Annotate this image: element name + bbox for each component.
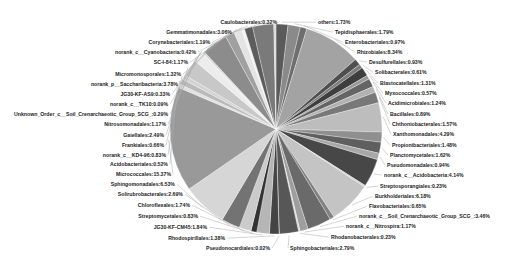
slice-label: Chloroflexales:1.74% (138, 202, 191, 208)
leader-line (382, 148, 388, 155)
slice-label: Blastocatellales:1.31% (380, 80, 436, 86)
slice-label: Rhodanobacterales:0.23% (331, 234, 396, 240)
slice-label: norank_c__KD4-96:0.83% (103, 152, 167, 158)
slice-label: Tepidisphaerales:1.79% (335, 29, 394, 35)
slice-label: Planctomycetales:1.62% (390, 152, 451, 158)
slice-label: Sphingobacteriales:2.79% (290, 245, 355, 251)
slice-label: JG30-KF-AS9:0.33% (120, 91, 170, 97)
slice-label: Unknown_Order_c__Soil_Crenarchaeotic_Gro… (14, 111, 168, 117)
slice-label: norank_p__Saccharibacteria:3.78% (91, 81, 178, 87)
slice-label: Solirubrobacterales:2.69% (118, 191, 184, 197)
slice-label: norank_c__Acidobacteria:4.14% (384, 172, 464, 178)
slice-label: Gaiellales:2.49% (123, 132, 164, 138)
leader-line (359, 61, 367, 63)
slice-label: Chthoniobacterales:1.57% (392, 121, 457, 127)
slice-label: Micromonosporales:1.32% (115, 71, 181, 77)
slice-label: Propionibacteriales:1.48% (392, 142, 457, 148)
slice-label: Desulfurellales:0.93% (369, 59, 423, 65)
leader-line (272, 236, 279, 248)
slice-label: Streptosporangiales:0.23% (380, 183, 447, 189)
pie-slices (170, 24, 382, 234)
slice-label: norank_c__Cyanobacteria:0.42% (115, 49, 196, 55)
slice-label: Xanthomonadales:4.29% (393, 131, 455, 137)
slice-label: Sphingomonadales:6.53% (111, 181, 176, 187)
pie-chart: others:1.73%Tepidisphaerales:1.79%Entero… (0, 0, 508, 270)
leader-line (367, 186, 379, 187)
slice-label: Myxococcales:0.57% (385, 90, 437, 96)
slice-label: Streptomycetales:0.83% (138, 213, 198, 219)
slice-label: Acidobacteriales:0.52% (110, 161, 168, 167)
slice-label: Corynebacteriales:1.19% (149, 39, 211, 45)
slice-label: Enterobacteriales:0.97% (345, 39, 405, 45)
slice-label: SC-I-84:1.17% (154, 59, 189, 65)
slice-label: Micrococcales:15.37% (116, 171, 171, 177)
slice-label: norank_c__Nitrospira:1.17% (346, 223, 416, 229)
slice-label: Pseudonocardiales:0.02% (206, 245, 270, 251)
slice-label: Frankiales:0.66% (122, 142, 164, 148)
slice-label: Solibacterales:0.61% (375, 69, 427, 75)
leader-line (383, 117, 391, 134)
slice-label: Rhizobiales:8.34% (357, 49, 403, 55)
slice-label: Nitrosomonadales:1.17% (104, 121, 166, 127)
slice-label: JG30-KF-CM45:1.84% (154, 224, 208, 230)
slice-label: Bacillales:0.89% (390, 111, 431, 117)
slice-label: norank_c__TK10:0.09% (110, 101, 168, 107)
slice-label: Rhodospirillales:1.38% (168, 235, 225, 241)
leader-line (227, 236, 274, 238)
leader-line (374, 174, 382, 175)
slice-label: Flavobacteriales:0.65% (369, 203, 426, 209)
leader-line (380, 157, 385, 165)
slice-label: Pseudomonadales:0.94% (387, 162, 450, 168)
slice-label: Burkholderiales:6.18% (375, 193, 431, 199)
slice-label: Gemmatimonadales:3.06% (166, 29, 232, 35)
slice-label: Acidimicrobiales:1.24% (388, 100, 446, 106)
slice-label: others:1.73% (318, 19, 351, 25)
leader-line (300, 233, 329, 237)
slice-label: Caulobacterales:0.32% (220, 19, 277, 25)
leader-line (384, 137, 390, 145)
slice-label: norank_c__Soil_Crenarchaeotic_Group_SCG_… (359, 213, 490, 219)
